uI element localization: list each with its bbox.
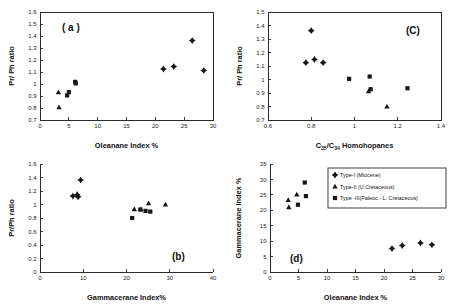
chart-legend: Type-I (Miocene)Type-II (U.Cretaceous)Ty… bbox=[328, 168, 446, 208]
data-point-square bbox=[74, 81, 78, 85]
data-point-square bbox=[67, 90, 71, 94]
x-tick-label: 5 bbox=[297, 275, 301, 281]
data-point-triangle bbox=[286, 197, 291, 202]
data-point-diamond bbox=[200, 67, 207, 74]
y-axis-title: Pr/ Ph ratio bbox=[7, 46, 16, 86]
data-point-diamond bbox=[189, 37, 196, 44]
data-point-diamond bbox=[399, 242, 406, 249]
y-axis-title: Gammacerane Index % bbox=[234, 177, 243, 258]
data-point-diamond bbox=[389, 245, 396, 252]
x-tick-label: 1 bbox=[353, 123, 357, 129]
y-tick-label: 1.6 bbox=[28, 161, 37, 167]
series-diamond bbox=[302, 27, 326, 66]
data-point-triangle bbox=[286, 204, 291, 209]
y-tick-label: 1.4 bbox=[28, 175, 37, 181]
plot-frame bbox=[40, 164, 213, 272]
y-tick-label: 0.7 bbox=[28, 117, 37, 123]
data-point-square bbox=[304, 194, 308, 198]
data-point-triangle bbox=[56, 90, 61, 95]
y-tick-label: 5 bbox=[263, 254, 267, 260]
data-point-triangle bbox=[294, 192, 299, 197]
data-point-triangle bbox=[163, 202, 168, 207]
panel-d-svg: 05101520253005101520253035Oleanane Index… bbox=[228, 152, 455, 304]
chart-panel-c: 0.60.811.21.40.70.80.911.11.21.31.41.5C3… bbox=[228, 0, 455, 152]
data-point-square bbox=[148, 209, 152, 213]
y-tick-label: 0.8 bbox=[28, 105, 37, 111]
y-tick-label: 1 bbox=[33, 81, 37, 87]
chart-panel-a: 0510152025300.70.80.911.11.21.31.41.51.6… bbox=[0, 0, 227, 152]
data-point-diamond bbox=[170, 63, 177, 70]
y-axis-title: Pr/Ph ratio bbox=[7, 199, 16, 237]
series-square bbox=[65, 80, 78, 98]
data-point-square bbox=[405, 86, 409, 90]
y-tick-label: 0 bbox=[263, 269, 267, 275]
y-tick-label: 1.3 bbox=[256, 36, 265, 42]
x-tick-label: 25 bbox=[409, 275, 416, 281]
x-axis-title: Oleanane Index % bbox=[95, 141, 159, 150]
x-tick-label: 15 bbox=[123, 123, 130, 129]
y-tick-label: 1.5 bbox=[28, 21, 37, 27]
panel-title: (C) bbox=[406, 25, 420, 36]
panel-c-svg: 0.60.811.21.40.70.80.911.11.21.31.41.5C3… bbox=[228, 0, 455, 152]
x-tick-label: 10 bbox=[80, 275, 87, 281]
data-point-diamond bbox=[160, 66, 167, 73]
data-point-square bbox=[143, 209, 147, 213]
x-tick-label: 5 bbox=[67, 123, 71, 129]
y-tick-label: 1.1 bbox=[256, 63, 265, 69]
x-axis-title: Oleanane Index % bbox=[324, 293, 388, 302]
x-tick-label: 30 bbox=[166, 275, 173, 281]
panel-a-svg: 0510152025300.70.80.911.11.21.31.41.51.6… bbox=[0, 0, 227, 152]
panel-b-svg: 01020304000.20.40.60.811.21.41.6Gammacer… bbox=[0, 152, 227, 304]
x-tick-label: 1.2 bbox=[394, 123, 403, 129]
y-axis-title: Pr/ Ph ratio bbox=[235, 46, 244, 86]
data-point-diamond bbox=[417, 240, 424, 247]
y-tick-label: 0.8 bbox=[28, 215, 37, 221]
data-point-square bbox=[368, 74, 372, 78]
x-axis-title: Gammacerane Index% bbox=[87, 293, 166, 302]
data-point-diamond bbox=[428, 241, 435, 248]
series-triangle bbox=[56, 90, 62, 110]
chart-panel-d: 05101520253005101520253035Oleanane Index… bbox=[228, 152, 455, 304]
series-diamond bbox=[69, 177, 84, 201]
y-tick-label: 1 bbox=[33, 202, 37, 208]
data-point-square bbox=[333, 196, 337, 200]
y-tick-label: 1.4 bbox=[28, 33, 37, 39]
y-tick-label: 20 bbox=[260, 207, 267, 213]
x-axis-title: C35/C34 Homohopanes bbox=[316, 141, 394, 151]
x-tick-label: 1.4 bbox=[437, 123, 446, 129]
y-tick-label: 1.6 bbox=[28, 9, 37, 15]
y-tick-label: 30 bbox=[260, 177, 267, 183]
figure-panel-grid: 0510152025300.70.80.911.11.21.31.41.51.6… bbox=[0, 0, 455, 305]
series-diamond bbox=[389, 240, 436, 252]
data-point-square bbox=[347, 77, 351, 81]
x-tick-label: 10 bbox=[94, 123, 101, 129]
data-point-diamond bbox=[311, 56, 318, 63]
x-tick-label: 0.6 bbox=[264, 123, 273, 129]
y-tick-label: 1.4 bbox=[256, 23, 265, 29]
x-tick-label: 0 bbox=[38, 275, 42, 281]
panel-b-axes: 01020304000.20.40.60.811.21.41.6 bbox=[28, 161, 217, 281]
legend-item-label: Type-I (Miocene) bbox=[340, 172, 381, 178]
data-point-diamond bbox=[320, 59, 327, 66]
data-point-square bbox=[369, 87, 373, 91]
data-point-triangle bbox=[132, 206, 137, 211]
y-tick-label: 0 bbox=[33, 269, 37, 275]
data-point-diamond bbox=[77, 177, 84, 184]
data-point-square bbox=[303, 180, 307, 184]
y-tick-label: 25 bbox=[260, 192, 267, 198]
panel-b-points bbox=[69, 177, 168, 220]
data-point-diamond bbox=[302, 59, 309, 66]
y-tick-label: 0.8 bbox=[256, 104, 265, 110]
x-tick-label: 20 bbox=[123, 275, 130, 281]
y-tick-label: 0.4 bbox=[28, 242, 37, 248]
panel-a-axes: 0510152025300.70.80.911.11.21.31.41.51.6 bbox=[28, 9, 217, 129]
data-point-triangle bbox=[146, 200, 151, 205]
y-tick-label: 1.2 bbox=[256, 50, 265, 56]
x-tick-label: 40 bbox=[210, 275, 217, 281]
y-tick-label: 1.1 bbox=[28, 69, 37, 75]
data-point-square bbox=[130, 216, 134, 220]
series-diamond bbox=[160, 37, 207, 74]
data-point-diamond bbox=[308, 27, 315, 34]
y-tick-label: 0.9 bbox=[28, 93, 37, 99]
panel-a-points bbox=[56, 37, 207, 109]
